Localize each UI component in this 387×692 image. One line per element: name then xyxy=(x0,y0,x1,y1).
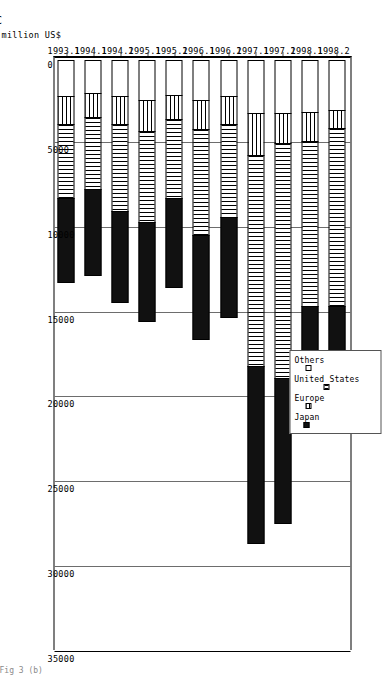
value-tick-label: 10000 xyxy=(47,230,74,240)
gridline xyxy=(54,481,350,482)
bar-1994.2 xyxy=(111,57,128,303)
category-tick-mark xyxy=(147,52,148,56)
bar-segment-us xyxy=(84,117,101,190)
category-tick-mark xyxy=(309,52,310,56)
legend-label: Japan xyxy=(294,413,319,422)
bar-1996.1 xyxy=(193,57,210,340)
legend-label: United States xyxy=(294,375,359,384)
bar-segment-us xyxy=(111,124,128,212)
legend-item-us: United States xyxy=(292,375,359,390)
bar-segment-others xyxy=(328,60,345,111)
chart-page: million US$ C Fig 3 (b) 0500010000150002… xyxy=(0,0,387,692)
category-tick-mark xyxy=(336,52,337,56)
bar-segment-others xyxy=(165,60,182,96)
category-tick-mark xyxy=(66,52,67,56)
value-tick-label: 15000 xyxy=(47,315,74,325)
bar-segment-us xyxy=(138,131,155,223)
bar-1994.1 xyxy=(84,57,101,276)
value-tick-label: 20000 xyxy=(47,399,74,409)
bar-segment-europe xyxy=(220,96,237,125)
bar-segment-us xyxy=(274,143,291,379)
bar-segment-us xyxy=(165,119,182,199)
bar-1995.2 xyxy=(165,57,182,288)
bar-segment-others xyxy=(57,60,74,97)
category-tick-mark xyxy=(255,52,256,56)
bar-segment-europe xyxy=(138,100,155,132)
category-tick-mark xyxy=(174,52,175,56)
bar-segment-us xyxy=(301,141,318,307)
bar-segment-others xyxy=(220,60,237,97)
bar-segment-europe xyxy=(328,110,345,129)
gridline xyxy=(54,566,350,567)
category-tick-mark xyxy=(93,52,94,56)
bar-segment-japan xyxy=(274,378,291,524)
bar-1996.2 xyxy=(220,57,237,318)
bar-segment-europe xyxy=(84,93,101,118)
bar-segment-japan xyxy=(57,198,74,283)
bar-segment-us xyxy=(328,128,345,308)
bar-1997.2 xyxy=(274,57,291,524)
category-tick-mark xyxy=(201,52,202,56)
bar-segment-us xyxy=(247,155,264,367)
figure: million US$ C Fig 3 (b) 0500010000150002… xyxy=(0,0,387,692)
bar-segment-japan xyxy=(138,222,155,322)
legend: OthersUnited StatesEuropeJapan xyxy=(289,350,381,434)
bar-segment-japan xyxy=(84,189,101,276)
bar-segment-europe xyxy=(111,96,128,125)
category-tick-mark xyxy=(282,52,283,56)
legend-label: Others xyxy=(294,356,324,365)
bar-segment-us xyxy=(57,124,74,199)
bar-segment-japan xyxy=(220,217,237,319)
bar-segment-japan xyxy=(247,366,264,544)
bar-1997.1 xyxy=(247,57,264,544)
bar-segment-japan xyxy=(111,211,128,303)
value-tick-label: 5000 xyxy=(47,145,69,155)
bar-segment-others xyxy=(301,60,318,113)
bar-segment-others xyxy=(193,60,210,101)
legend-swatch-europe xyxy=(305,403,311,409)
value-tick-label: 30000 xyxy=(47,569,74,579)
bar-1995.1 xyxy=(138,57,155,322)
bar-segment-europe xyxy=(193,100,210,131)
bar-1993.1 xyxy=(57,57,74,283)
legend-item-others: Others xyxy=(292,356,324,371)
gridline xyxy=(54,651,350,652)
bar-segment-others xyxy=(111,60,128,97)
legend-swatch-us xyxy=(323,384,329,390)
category-tick-mark xyxy=(120,52,121,56)
bar-segment-others xyxy=(138,60,155,101)
value-tick-label: 0 xyxy=(47,60,52,70)
bar-segment-others xyxy=(247,60,264,114)
bar-segment-others xyxy=(274,60,291,114)
figure-caption: Fig 3 (b) xyxy=(0,666,42,675)
bar-segment-japan xyxy=(193,235,210,340)
legend-item-japan: Japan xyxy=(292,413,319,428)
bar-segment-europe xyxy=(247,113,264,155)
legend-label: Europe xyxy=(294,394,324,403)
bar-segment-europe xyxy=(165,95,182,120)
bar-segment-europe xyxy=(301,112,318,143)
legend-swatch-japan xyxy=(303,422,309,428)
bar-segment-others xyxy=(84,60,101,94)
category-tick-mark xyxy=(228,52,229,56)
legend-item-europe: Europe xyxy=(292,394,324,409)
bar-segment-europe xyxy=(57,96,74,125)
bar-segment-europe xyxy=(274,113,291,144)
value-tick-label: 25000 xyxy=(47,484,74,494)
bar-segment-us xyxy=(220,124,237,217)
value-tick-label: 35000 xyxy=(47,654,74,664)
legend-swatch-others xyxy=(305,365,311,371)
bar-segment-us xyxy=(193,129,210,236)
bar-segment-japan xyxy=(165,198,182,288)
value-axis-title: million US$ xyxy=(1,30,61,40)
category-tick-label: 1998.2 xyxy=(317,46,350,56)
corner-mark: C xyxy=(0,14,2,27)
